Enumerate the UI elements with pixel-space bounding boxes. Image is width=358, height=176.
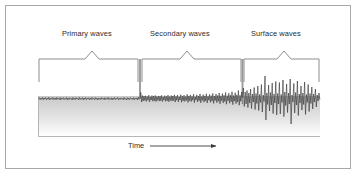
seismogram-figure: Primary waves Secondary waves Surface wa… (0, 0, 358, 176)
phase-label-surface: Surface waves (251, 30, 301, 37)
bracket-surface (244, 51, 319, 82)
phase-dividers (140, 59, 243, 99)
phase-label-primary: Primary waves (62, 30, 112, 37)
phase-brackets (39, 51, 319, 82)
bracket-secondary (142, 51, 241, 82)
phase-label-secondary: Secondary waves (150, 30, 210, 37)
seismogram-graphic (0, 0, 358, 176)
trace-shading (38, 96, 320, 136)
time-axis-label: Time (128, 142, 144, 149)
bracket-primary (39, 51, 138, 82)
